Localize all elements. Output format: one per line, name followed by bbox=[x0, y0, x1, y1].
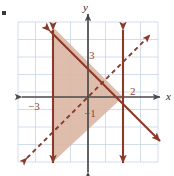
tick-label-neg1: −1 bbox=[84, 108, 96, 119]
x-axis-label: x bbox=[166, 91, 171, 102]
graph-figure: y x 3 −3 −1 2 bbox=[0, 0, 174, 176]
tick-label-neg3: −3 bbox=[28, 101, 40, 112]
coordinate-plane-svg bbox=[0, 0, 174, 176]
tick-label-3: 3 bbox=[89, 50, 95, 61]
tick-label-2: 2 bbox=[130, 86, 136, 97]
y-axis-label: y bbox=[83, 2, 88, 13]
